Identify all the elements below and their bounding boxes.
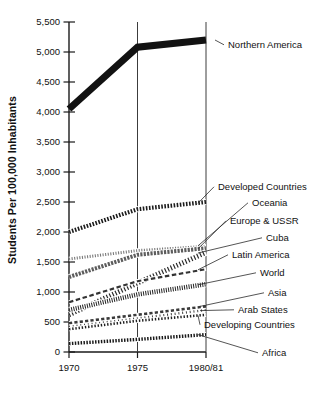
- series-label-oceania: Oceania: [252, 197, 288, 208]
- series-label-europe-ussr: Europe & USSR: [230, 215, 299, 226]
- y-tick-label: 1,500: [36, 256, 60, 267]
- y-tick-label: 4,000: [36, 106, 60, 117]
- y-tick-label: 500: [44, 316, 60, 327]
- y-tick-label: 1,000: [36, 286, 60, 297]
- series-label-developed-countries: Developed Countries: [218, 181, 307, 192]
- y-axis-label: Students Per 100,000 Inhabitants: [6, 96, 18, 264]
- series-label-asia: Asia: [268, 287, 287, 298]
- x-tick-label: 1980/81: [189, 362, 223, 373]
- x-axis-ticks: [69, 352, 206, 358]
- y-tick-label: 2,500: [36, 196, 60, 207]
- series-label-developing-countries: Developing Countries: [204, 319, 295, 330]
- series-label-northern-america: Northern America: [228, 39, 303, 50]
- leader-line-europe-ussr: [198, 221, 226, 249]
- x-tick-label: 1975: [127, 362, 148, 373]
- y-tick-label: 5,000: [36, 46, 60, 57]
- leader-line-africa: [198, 335, 258, 353]
- series-label-arab-states: Arab States: [238, 304, 288, 315]
- y-tick-label: 5,500: [36, 16, 60, 27]
- y-tick-label: 2,000: [36, 226, 60, 237]
- y-axis-tick-labels: 05001,0001,5002,0002,5003,0003,5004,0004…: [36, 16, 60, 357]
- y-tick-label: 4,500: [36, 76, 60, 87]
- x-axis-tick-labels: 197019751980/81: [58, 362, 223, 373]
- vertical-gridlines: [138, 22, 207, 352]
- leader-line-world: [198, 273, 256, 285]
- y-axis-label-container: Students Per 100,000 Inhabitants: [0, 0, 24, 360]
- series-label-africa: Africa: [262, 347, 287, 358]
- chart-container: Students Per 100,000 Inhabitants 05001,0…: [0, 0, 316, 393]
- line-chart-svg: 05001,0001,5002,0002,5003,0003,5004,0004…: [0, 0, 316, 393]
- series-label-latin-america: Latin America: [232, 249, 290, 260]
- series-label-cuba: Cuba: [266, 232, 289, 243]
- series-label-world: World: [260, 267, 285, 278]
- x-tick-label: 1970: [58, 362, 79, 373]
- leader-line-northern-america: [215, 40, 224, 45]
- y-tick-label: 0: [55, 346, 60, 357]
- y-tick-label: 3,500: [36, 136, 60, 147]
- y-tick-label: 3,000: [36, 166, 60, 177]
